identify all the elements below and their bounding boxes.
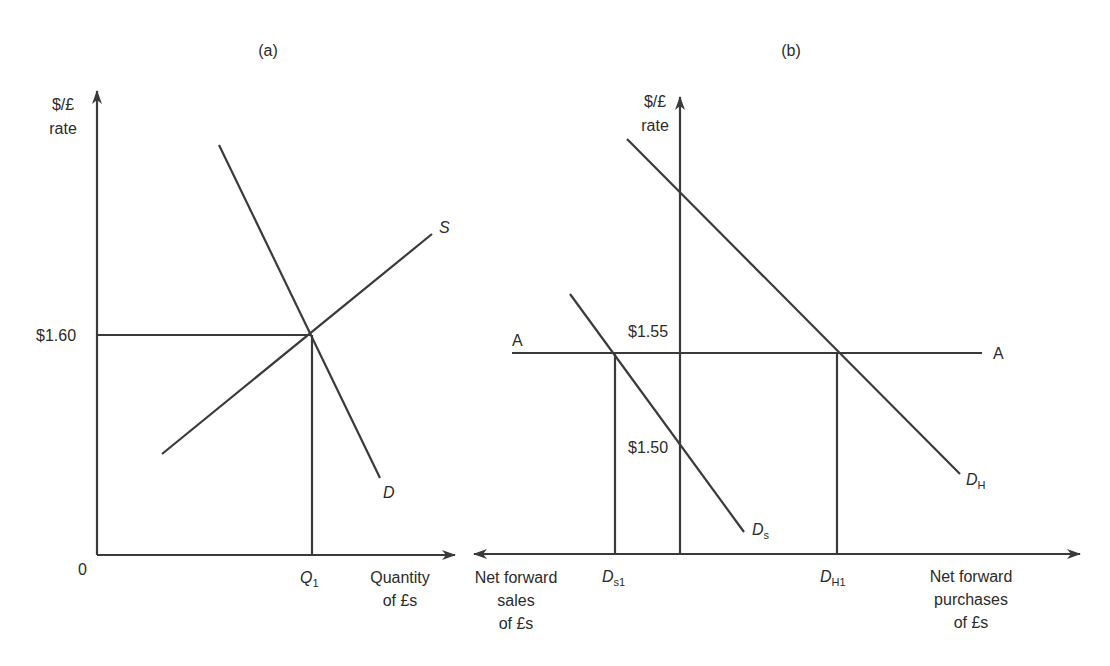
panel-b-title: (b) (776, 41, 806, 60)
hedger-demand-curve (627, 139, 960, 474)
forward-exchange-diagram: (a) $/£ rate $1.60 0 Q1 Quantity of £s S… (0, 0, 1110, 666)
arbitrage-line-left-label: A (512, 331, 523, 350)
net-forward-purchases-label-line1: Net forward (916, 567, 1026, 586)
panel-a-supply-curve (162, 234, 432, 454)
panel-a-x-axis-label-line1: Quantity (355, 568, 445, 587)
rate-150-label: $1.50 (628, 438, 668, 457)
panel-a-y-axis-label-line1: $/£ (43, 95, 83, 114)
dh-main: D (966, 471, 978, 488)
rate-155-label: $1.55 (628, 322, 668, 341)
dh-sub: H (978, 479, 986, 491)
panel-a-graph (97, 91, 455, 555)
panel-a-quantity-q1-label: Q1 (300, 568, 319, 593)
net-forward-sales-label-line3: of £s (466, 614, 566, 633)
net-forward-sales-label-line2: sales (466, 591, 566, 610)
net-forward-purchases-label-line3: of £s (916, 613, 1026, 632)
dh1-axis-label: DH1 (820, 567, 846, 592)
panel-b-y-axis-label-line2: rate (638, 116, 672, 135)
ds1-sub: s1 (614, 576, 626, 588)
panel-a-y-axis-label-line2: rate (43, 119, 83, 138)
net-forward-sales-label-line1: Net forward (466, 568, 566, 587)
q1-main: Q (300, 569, 312, 586)
q1-sub: 1 (312, 577, 318, 589)
ds-sub: s (764, 529, 770, 541)
dh1-sub: H1 (832, 576, 846, 588)
net-forward-purchases-label-line2: purchases (916, 590, 1026, 609)
demand-curve-label: D (383, 483, 395, 502)
supply-curve-label: S (439, 218, 450, 237)
panel-a-title: (a) (253, 41, 283, 60)
panel-a-price-level-label: $1.60 (36, 326, 76, 345)
ds1-axis-label: Ds1 (602, 567, 625, 592)
ds-main: D (752, 521, 764, 538)
speculator-demand-label: Ds (752, 520, 769, 545)
arbitrage-line-right-label: A (993, 344, 1004, 363)
panel-a-demand-curve (219, 145, 380, 478)
dh1-main: D (820, 568, 832, 585)
panel-a-origin-label: 0 (78, 560, 87, 579)
ds1-main: D (602, 568, 614, 585)
panel-b-y-axis-label-line1: $/£ (640, 92, 670, 111)
panel-b-graph (474, 97, 1080, 554)
panel-a-x-axis-label-line2: of £s (355, 591, 445, 610)
hedger-demand-label: DH (966, 470, 986, 495)
